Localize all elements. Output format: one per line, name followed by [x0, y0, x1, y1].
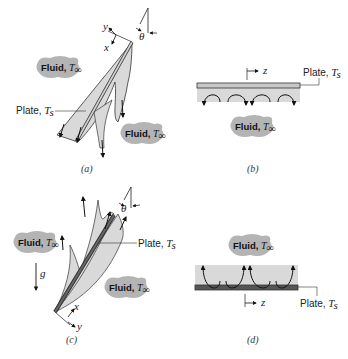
natural-convection-figure: y x θ Plate, Ts Fluid, T∞ Fluid, T∞ (a) …: [0, 0, 348, 359]
caption-c: (c): [66, 334, 78, 346]
flow-arrow-icon: [62, 236, 63, 250]
boundary-layer-a: [57, 42, 132, 142]
gravity-label: g: [40, 267, 46, 279]
y-axis-label: y: [76, 320, 82, 332]
fluid-cloud-a2: Fluid, T∞: [120, 122, 165, 144]
fluid-cloud-c1: Fluid, T∞: [13, 231, 58, 253]
caption-d: (d): [247, 334, 259, 346]
panel-d: z Plate, Ts Fluid, T∞ (d): [195, 234, 338, 346]
fluid-cloud-d: Fluid, T∞: [228, 234, 273, 256]
fluid-cloud-a1: Fluid, T∞: [36, 56, 81, 78]
plate-label-d: Plate, Ts: [300, 297, 338, 311]
y-axis-arrow-icon: [109, 28, 116, 35]
z-axis-label: z: [262, 64, 268, 76]
fluid-cloud-b: Fluid, T∞: [230, 115, 275, 137]
plate-label-a: Plate, Ts: [16, 104, 54, 118]
flow-arrow-icon: [83, 197, 85, 217]
angle-theta-label: θ: [121, 202, 127, 214]
fluid-cloud-c2: Fluid, T∞: [104, 276, 149, 298]
x-axis-arrow-icon: [112, 35, 116, 44]
z-axis-label: z: [260, 296, 266, 308]
panel-b: z Plate, Ts Fluid, T∞ (b): [197, 64, 341, 175]
x-axis-label: x: [103, 41, 109, 53]
caption-b: (b): [247, 163, 259, 175]
plate-label-c: Plate, Ts: [138, 237, 176, 251]
x-axis-label: x: [73, 300, 79, 312]
angle-theta-label: θ: [139, 30, 145, 42]
y-axis-label: y: [102, 20, 108, 32]
caption-a: (a): [81, 163, 93, 175]
panel-a: y x θ Plate, Ts Fluid, T∞ Fluid, T∞ (a): [16, 8, 166, 175]
plate-label-b: Plate, Ts: [303, 66, 341, 80]
plate-b: [197, 83, 300, 88]
panel-c: θ Plate, Ts g x y Fluid, T∞ Fluid, T∞ (c…: [13, 187, 175, 346]
